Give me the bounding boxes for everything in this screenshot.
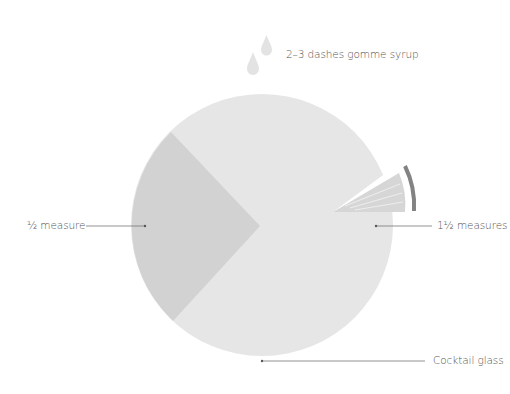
cocktail-glass-label: Cocktail glass xyxy=(433,354,504,366)
leader-line-glass xyxy=(261,360,425,362)
drop-icon xyxy=(247,52,259,75)
cocktail-diagram xyxy=(0,0,510,394)
drop-icon xyxy=(261,35,272,56)
syrup-label: 2–3 dashes gomme syrup xyxy=(286,48,419,60)
half-measure-label: ½ measure xyxy=(27,219,85,231)
one-half-measures-label: 1½ measures xyxy=(437,219,507,231)
